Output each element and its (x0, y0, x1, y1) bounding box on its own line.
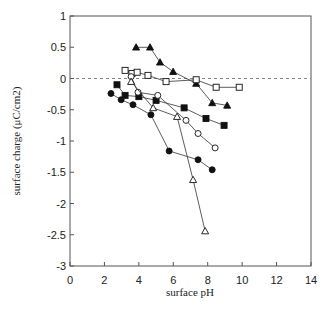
y-tick-label: -1.5 (47, 166, 66, 178)
triangle-marker (157, 59, 164, 65)
circle-marker (148, 112, 154, 118)
square-marker (213, 84, 219, 90)
x-tick-label: 14 (305, 274, 317, 286)
plot-frame (70, 16, 311, 266)
x-tick-label: 2 (101, 274, 107, 286)
circle-marker (166, 148, 172, 154)
x-tick-label: 0 (67, 274, 73, 286)
square-marker (163, 79, 169, 85)
x-tick-label: 10 (236, 274, 248, 286)
triangle-marker (174, 113, 181, 119)
circle-marker (155, 92, 161, 98)
series-open-triangle (128, 78, 209, 234)
series-line (131, 77, 215, 148)
y-tick-label: 1 (60, 10, 66, 22)
circle-marker (118, 97, 124, 103)
x-tick-label: 8 (205, 274, 211, 286)
y-tick-label: 0.5 (51, 41, 66, 53)
circle-marker (108, 91, 114, 97)
circle-marker (212, 145, 218, 151)
series-open-square (122, 67, 242, 90)
circle-marker (195, 131, 201, 137)
square-marker (145, 72, 151, 78)
x-tick-label: 6 (170, 274, 176, 286)
y-tick-label: -2 (56, 198, 66, 210)
y-tick-label: 0 (60, 73, 66, 85)
x-tick-label: 4 (136, 274, 142, 286)
y-tick-label: -2.5 (47, 229, 66, 241)
square-marker (236, 84, 242, 90)
y-tick-label: -3 (56, 260, 66, 272)
y-tick-label: -1 (56, 135, 66, 147)
x-tick-label: 12 (270, 274, 282, 286)
square-marker (134, 69, 140, 75)
square-marker (193, 77, 199, 83)
square-marker (203, 116, 209, 122)
circle-marker (209, 167, 215, 173)
square-marker (122, 67, 128, 73)
square-marker (181, 105, 187, 111)
data-series (108, 44, 242, 234)
chart: 02468101214 10.50-0.5-1-1.5-2-2.5-3 surf… (0, 0, 336, 321)
y-axis-title: surface charge (μC/cm2) (10, 86, 23, 195)
y-tick-label: -0.5 (47, 104, 66, 116)
plot-border (70, 16, 311, 266)
square-marker (114, 82, 120, 88)
series-open-circle (128, 74, 218, 151)
triangle-marker (170, 68, 177, 74)
circle-marker (130, 102, 136, 108)
circle-marker (195, 157, 201, 163)
triangle-marker (190, 176, 197, 182)
circle-marker (183, 117, 189, 123)
triangle-marker (202, 228, 209, 234)
square-marker (221, 122, 227, 128)
x-axis-title: surface pH (166, 286, 214, 298)
